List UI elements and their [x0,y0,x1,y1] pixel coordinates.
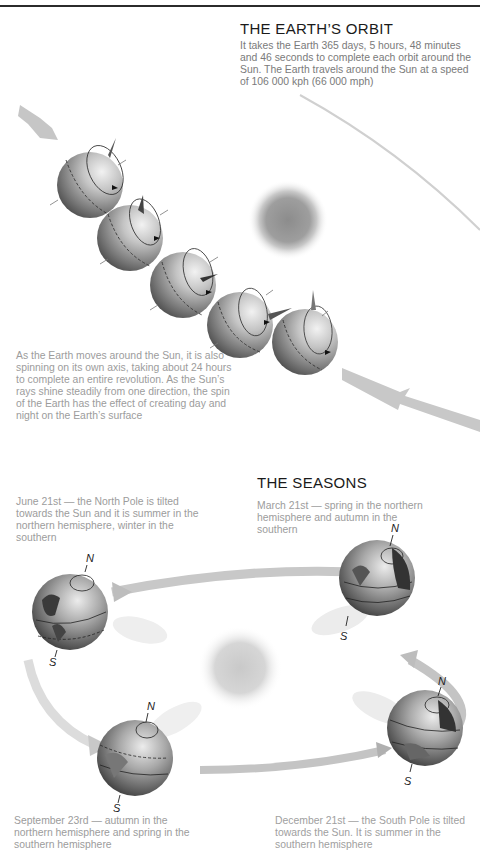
orbit-arrow-bottom [200,750,385,770]
rotation-caption: As the Earth moves around the Sun, it is… [16,350,236,422]
december-caption: December 21st — the South Pole is tilted… [275,815,475,851]
seasons-sun-icon [198,626,282,710]
september-caption: September 23rd — autumn in the northern … [14,815,204,851]
march-south-label: S [340,630,347,642]
outgoing-orbit-arrow-icon [342,368,480,432]
globe-3 [150,245,218,318]
orbit-arrow-top [112,571,375,592]
june-caption: June 21st — the North Pole is tilted tow… [16,496,206,544]
september-north-label: N [147,700,155,712]
orbit-description: It takes the Earth 365 days, 5 hours, 48… [240,40,480,88]
earths-orbit-heading: THE EARTH’S ORBIT [240,20,393,37]
june-south-label: S [49,656,56,668]
globe-june [32,565,108,657]
globe-december [387,687,463,772]
december-south-label: S [404,775,411,787]
sun-icon [248,180,328,260]
globe-1 [50,138,130,218]
globe-5 [272,290,338,375]
december-north-label: N [438,675,446,687]
incoming-sunlight-arrow-icon [18,105,58,140]
march-caption: March 21st — spring in the northern hemi… [257,500,427,536]
seasons-heading: THE SEASONS [257,474,367,491]
september-south-label: S [113,802,120,814]
orbit-path-line [300,95,480,230]
june-north-label: N [86,552,94,564]
orbit-arrow-left [28,660,95,745]
